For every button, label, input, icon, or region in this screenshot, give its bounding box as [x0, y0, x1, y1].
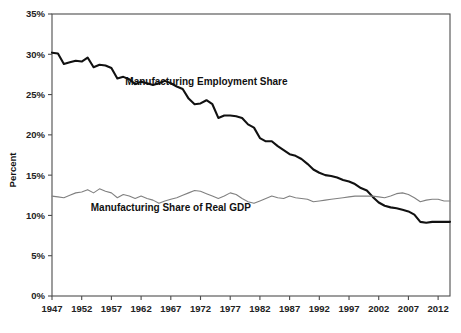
y-tick-label: 15%: [26, 170, 46, 181]
series-label-0: Manufacturing Employment Share: [125, 76, 288, 87]
y-tick-label: 5%: [31, 250, 45, 261]
x-tick-label: 1947: [41, 303, 62, 314]
x-tick-label: 1957: [101, 303, 122, 314]
y-axis-ticks: [48, 14, 52, 296]
y-tick-label: 10%: [26, 210, 46, 221]
x-axis-ticks: [52, 296, 438, 300]
x-tick-label: 1997: [338, 303, 359, 314]
x-tick-label: 1967: [160, 303, 181, 314]
y-axis-tick-labels: 0%5%10%15%20%25%30%35%: [26, 8, 46, 301]
x-tick-label: 1977: [220, 303, 241, 314]
x-tick-label: 2007: [398, 303, 419, 314]
y-tick-label: 0%: [31, 290, 45, 301]
series-label-1: Manufacturing Share of Real GDP: [91, 202, 251, 213]
x-axis-tick-labels: 1947195219571962196719721977198219871992…: [41, 303, 448, 314]
y-axis-title: Percent: [7, 152, 18, 188]
x-tick-label: 1982: [249, 303, 270, 314]
plot-border: [52, 14, 450, 296]
y-tick-label: 35%: [26, 8, 46, 19]
x-tick-label: 1952: [71, 303, 92, 314]
y-tick-label: 30%: [26, 49, 46, 60]
x-tick-label: 1987: [279, 303, 300, 314]
plot-frame: [52, 14, 450, 296]
y-tick-label: 25%: [26, 89, 46, 100]
x-tick-label: 1972: [190, 303, 211, 314]
x-tick-label: 2012: [428, 303, 449, 314]
y-tick-label: 20%: [26, 129, 46, 140]
x-tick-label: 2002: [368, 303, 389, 314]
x-tick-label: 1962: [131, 303, 152, 314]
line-chart: 0%5%10%15%20%25%30%35% 19471952195719621…: [0, 0, 461, 333]
chart-figure: 0%5%10%15%20%25%30%35% 19471952195719621…: [0, 0, 461, 333]
x-tick-label: 1992: [309, 303, 330, 314]
